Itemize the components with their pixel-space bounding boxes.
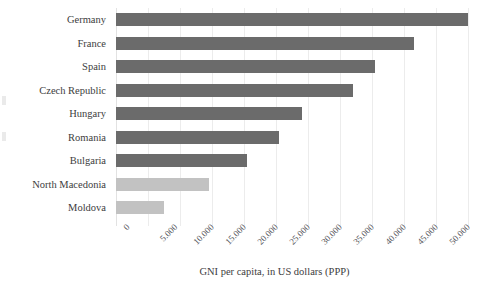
category-label: North Macedonia	[0, 173, 111, 197]
category-label-text: Hungary	[69, 102, 111, 126]
category-label-text: North Macedonia	[32, 173, 111, 197]
bar-row	[116, 55, 468, 79]
category-label-text: Romania	[68, 126, 111, 150]
x-tick-label: 45.000	[415, 222, 440, 247]
bar-row	[116, 196, 468, 220]
category-label: France	[0, 32, 111, 56]
bar	[116, 84, 353, 97]
category-label-text: Czech Republic	[39, 79, 111, 103]
category-label-text: Moldova	[68, 196, 111, 220]
category-label: Romania	[0, 126, 111, 150]
bar-chart: GermanyFranceSpainCzech RepublicHungaryR…	[0, 0, 479, 289]
category-label-text: Germany	[67, 8, 111, 32]
category-label-text: France	[77, 32, 111, 56]
category-label: Germany	[0, 8, 111, 32]
bar	[116, 107, 302, 120]
bar-row	[116, 173, 468, 197]
plot-area	[116, 8, 468, 220]
x-tick-label: 40.000	[383, 222, 408, 247]
x-tick-label: 30.000	[319, 222, 344, 247]
bar	[116, 37, 414, 50]
bar	[116, 178, 209, 191]
category-label: Czech Republic	[0, 79, 111, 103]
bar-row	[116, 79, 468, 103]
gridline	[468, 8, 469, 226]
bar	[116, 13, 468, 26]
bar-row	[116, 126, 468, 150]
bar	[116, 60, 375, 73]
x-tick-label: 5.000	[158, 222, 179, 243]
bar	[116, 201, 164, 214]
x-tick-label: 35.000	[351, 222, 376, 247]
bar	[116, 154, 247, 167]
bar-row	[116, 32, 468, 56]
bar-row	[116, 149, 468, 173]
x-tick-label: 10.000	[191, 222, 216, 247]
x-tick-label: 20.000	[255, 222, 280, 247]
x-tick-label: 0	[121, 222, 131, 232]
x-axis-title-text: GNI per capita, in US dollars (PPP)	[199, 266, 349, 277]
category-label-text: Bulgaria	[70, 149, 111, 173]
bar-row	[116, 102, 468, 126]
category-label: Bulgaria	[0, 149, 111, 173]
category-label: Hungary	[0, 102, 111, 126]
category-label: Spain	[0, 55, 111, 79]
x-axis-title: GNI per capita, in US dollars (PPP)	[0, 266, 479, 277]
category-label-text: Spain	[82, 55, 111, 79]
x-tick-label: 50.000	[447, 222, 472, 247]
x-tick-label: 15.000	[223, 222, 248, 247]
x-tick-label: 25.000	[287, 222, 312, 247]
category-label: Moldova	[0, 196, 111, 220]
bar-row	[116, 8, 468, 32]
bar	[116, 131, 279, 144]
